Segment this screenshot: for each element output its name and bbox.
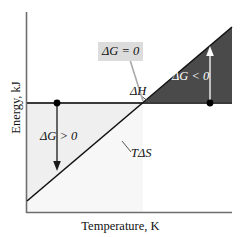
delta-g-zero-label: ΔG = 0 (98, 42, 143, 61)
delta-h-label: ΔH (130, 84, 146, 99)
marker-right (207, 100, 214, 107)
delta-g-positive-label: ΔG > 0 (40, 129, 77, 144)
thermodynamics-figure: ΔH TΔS ΔG = 0 ΔG > 0 ΔG < 0 Temperature,… (0, 0, 241, 237)
marker-left (54, 100, 61, 107)
y-axis-label: Energy, kJ (9, 68, 24, 148)
delta-g-negative-label: ΔG < 0 (172, 69, 209, 84)
t-delta-s-label: TΔS (131, 146, 152, 161)
plot-area (0, 0, 241, 237)
x-axis-label: Temperature, K (0, 219, 241, 234)
